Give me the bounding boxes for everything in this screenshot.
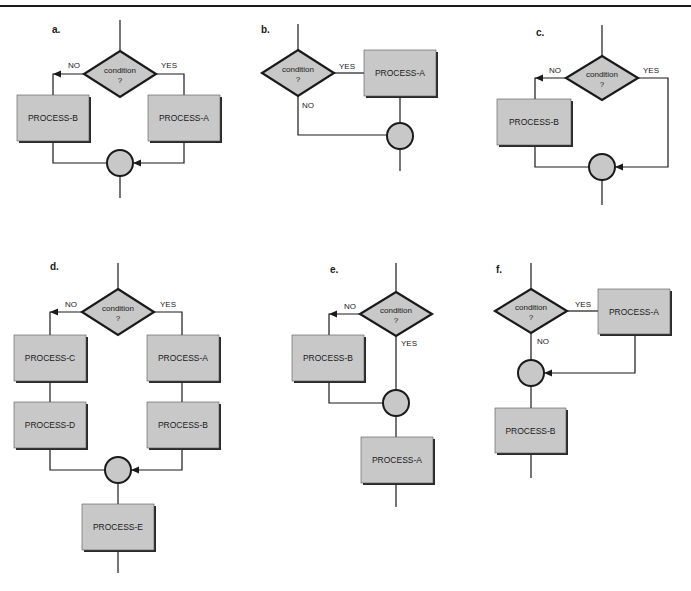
condition-question-mark: ? [600,80,605,89]
panel-d: d.condition?PROCESS-CPROCESS-APROCESS-DP… [14,261,221,573]
process-box: PROCESS-B [17,95,91,143]
process-box: PROCESS-B [147,402,221,450]
no-label: NO [344,302,356,311]
arrowhead-icon [131,467,139,474]
process-label: PROCESS-A [609,307,659,317]
connector-line [53,141,107,163]
condition-label: condition [282,65,314,74]
panel-label: f. [496,264,502,275]
no-label: NO [65,300,77,309]
process-box: PROCESS-D [14,402,88,450]
junction-circle [107,150,133,176]
process-label: PROCESS-A [158,353,208,363]
condition-label: condition [380,306,412,315]
panel-label: a. [52,24,61,35]
panel-label: b. [261,24,270,35]
process-box: PROCESS-B [292,335,366,383]
connector-line [53,74,84,95]
arrowhead-icon [50,309,58,316]
process-label: PROCESS-B [505,426,555,436]
junction-circle [105,457,131,483]
process-label: PROCESS-A [159,113,209,123]
process-label: PROCESS-B [509,117,559,127]
panel-label: c. [536,27,545,38]
yes-label: YES [401,339,417,348]
condition-label: condition [586,70,618,79]
decision-diamond: condition? [495,289,567,333]
process-box: PROCESS-A [598,289,672,336]
no-label: NO [549,66,561,75]
arrowhead-icon [53,71,61,78]
decision-diamond: condition? [82,289,154,335]
decision-diamond: condition? [84,51,156,97]
process-box: PROCESS-B [497,99,573,147]
no-label: NO [537,337,549,346]
flowchart-diagrams: a.condition?PROCESS-BPROCESS-ANOYESb.con… [0,0,691,591]
process-box: PROCESS-A [364,50,438,98]
arrowhead-icon [535,75,543,82]
connector-line [50,312,82,335]
process-label: PROCESS-A [375,68,425,78]
connector-line [50,448,105,470]
process-label: PROCESS-B [158,420,208,430]
process-label: PROCESS-A [372,455,422,465]
process-box: PROCESS-A [361,437,435,485]
panel-e: e.condition?PROCESS-BPROCESS-ANOYES [292,263,435,507]
process-label: PROCESS-B [28,113,78,123]
panel-a: a.condition?PROCESS-BPROCESS-ANOYES [17,20,222,198]
yes-label: YES [160,300,176,309]
condition-label: condition [104,66,136,75]
panel-c: c.condition?PROCESS-BNOYES [497,25,668,205]
panel-label: e. [330,264,339,275]
yes-label: YES [643,66,659,75]
process-label: PROCESS-D [25,420,76,430]
panel-label: d. [50,261,59,272]
connector-line [154,312,182,335]
yes-label: YES [161,61,177,70]
condition-question-mark: ? [118,76,123,85]
process-label: PROCESS-E [93,522,143,532]
decision-diamond: condition? [566,56,638,100]
condition-question-mark: ? [394,316,399,325]
junction-circle [383,390,409,416]
yes-label: YES [575,300,591,309]
process-box: PROCESS-C [14,335,88,383]
condition-question-mark: ? [529,313,534,322]
connector-line [329,381,383,403]
connector-line [329,314,360,335]
process-box: PROCESS-E [82,504,156,552]
no-label: NO [302,101,314,110]
decision-diamond: condition? [262,50,334,96]
condition-label: condition [102,304,134,313]
process-box: PROCESS-B [495,408,568,455]
arrowhead-icon [544,370,552,377]
arrowhead-icon [615,164,623,171]
connector-line [615,78,668,167]
panel-b: b.condition?PROCESS-AYESNO [261,24,438,171]
process-box: PROCESS-A [147,335,221,383]
junction-circle [387,123,413,149]
no-label: NO [68,61,80,70]
connector-line [535,78,566,99]
connector-line [544,334,635,373]
connector-line [156,74,184,95]
condition-label: condition [515,303,547,312]
junction-circle [518,360,544,386]
arrowhead-icon [133,160,141,167]
condition-question-mark: ? [116,314,121,323]
panel-f: f.condition?PROCESS-APROCESS-BYESNO [495,263,672,478]
arrowhead-icon [329,311,337,318]
process-label: PROCESS-C [25,353,76,363]
condition-question-mark: ? [296,75,301,84]
decision-diamond: condition? [360,292,432,336]
connector-line [535,145,589,167]
yes-label: YES [339,62,355,71]
process-label: PROCESS-B [303,353,353,363]
process-box: PROCESS-A [148,95,222,143]
junction-circle [589,154,615,180]
